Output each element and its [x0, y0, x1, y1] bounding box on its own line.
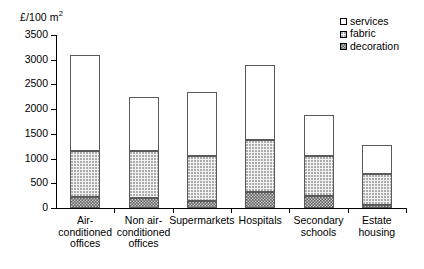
bar [245, 65, 275, 208]
y-axis-tick-label: 3500 [0, 28, 48, 40]
y-axis-tick [51, 208, 56, 209]
y-axis-tick-label: 0 [0, 201, 48, 213]
x-axis-tick [348, 208, 349, 213]
x-axis-category-label: Non air-conditionedoffices [110, 215, 176, 250]
bar-segment-services [304, 115, 334, 156]
x-axis-category-label: Air-conditionedoffices [52, 215, 118, 250]
x-axis-category-label-line: schools [285, 227, 351, 239]
y-axis-tick-label: 1000 [0, 152, 48, 164]
bar-segment-services [362, 145, 392, 174]
x-axis-category-label: Secondaryschools [285, 215, 351, 238]
x-axis-category-label-line: housing [344, 227, 410, 239]
y-axis-tick-label: 2500 [0, 77, 48, 89]
bar-segment-services [187, 92, 217, 156]
x-axis-category-label-line: Hospitals [227, 215, 293, 227]
bar-segment-fabric [129, 151, 159, 198]
stacked-bar-chart: £/100 m2 0500100015002000250030003500 Ai… [0, 0, 424, 269]
x-axis-category-label: Estatehousing [344, 215, 410, 238]
legend-item[interactable]: decoration [340, 41, 399, 53]
y-axis-title-superscript: 2 [59, 9, 63, 18]
bar-segment-fabric [70, 151, 100, 197]
x-axis-category-label: Hospitals [227, 215, 293, 227]
legend-item-label: fabric [350, 28, 376, 40]
x-axis-tick [289, 208, 290, 213]
legend-item-label: services [350, 16, 389, 28]
bar-segment-decoration [70, 197, 100, 208]
x-axis-tick [406, 208, 407, 213]
y-axis-title-text: £/100 m [20, 11, 59, 23]
bar [70, 55, 100, 208]
x-axis-category-label-line: offices [52, 238, 118, 250]
y-axis-title: £/100 m2 [20, 9, 63, 23]
y-axis-tick-label: 1500 [0, 127, 48, 139]
bar-segment-decoration [362, 205, 392, 208]
x-axis-tick [173, 208, 174, 213]
legend-item[interactable]: fabric [340, 28, 399, 40]
x-axis-tick [114, 208, 115, 213]
x-axis-category-label-line: Secondary [285, 215, 351, 227]
y-axis-tick-label: 3000 [0, 53, 48, 65]
hatched-square-icon [340, 43, 347, 50]
bar-segment-fabric [362, 174, 392, 205]
bar-segment-services [70, 55, 100, 151]
bar [304, 115, 334, 208]
plot-area [56, 35, 406, 208]
x-axis-category-label-line: Air- [52, 215, 118, 227]
legend-item[interactable]: services [340, 16, 399, 28]
x-axis-category-label-line: Supermarkets [169, 215, 235, 227]
chart-legend: servicesfabricdecoration [340, 16, 399, 53]
bar-segment-services [245, 65, 275, 141]
bar [187, 92, 217, 208]
legend-item-label: decoration [350, 41, 399, 53]
y-axis-tick-label: 2000 [0, 102, 48, 114]
x-axis-category-label: Supermarkets [169, 215, 235, 227]
x-axis-category-label-line: offices [110, 238, 176, 250]
white-square-icon [340, 18, 347, 25]
bar [129, 97, 159, 208]
bar [362, 145, 392, 208]
bar-segment-decoration [187, 201, 217, 208]
bar-segment-fabric [187, 156, 217, 201]
x-axis-tick [231, 208, 232, 213]
dotted-square-icon [340, 31, 347, 38]
bar-segment-decoration [304, 196, 334, 208]
bar-segment-fabric [304, 156, 334, 196]
x-axis-category-label-line: Estate [344, 215, 410, 227]
x-axis-category-label-line: Non air- [110, 215, 176, 227]
bar-segment-decoration [129, 198, 159, 208]
bar-segment-decoration [245, 192, 275, 208]
bar-segment-fabric [245, 140, 275, 191]
bar-segment-services [129, 97, 159, 151]
y-axis-tick-label: 500 [0, 176, 48, 188]
